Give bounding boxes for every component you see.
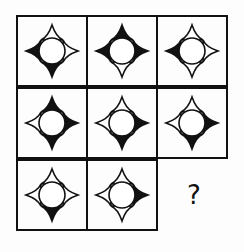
center-circle [179,38,205,64]
puzzle-cell [86,87,158,159]
four-point-star-icon [88,161,156,229]
puzzle-cell [86,15,158,87]
answer-cell: ? [156,159,228,231]
four-point-star-icon [18,161,86,229]
puzzle-cell [16,15,88,87]
puzzle-cell [16,87,88,159]
puzzle-cell [86,159,158,231]
center-circle [39,38,65,64]
four-point-star-icon [18,89,86,157]
puzzle-cell [156,15,228,87]
puzzle-cell [16,159,88,231]
four-point-star-icon [88,17,156,85]
question-mark: ? [158,159,230,231]
center-circle [109,38,135,64]
four-point-star-icon [158,89,226,157]
center-circle [39,182,65,208]
four-point-star-icon [88,89,156,157]
center-circle [39,110,65,136]
puzzle-cell [156,87,228,159]
four-point-star-icon [158,17,226,85]
four-point-star-icon [18,17,86,85]
center-circle [109,110,135,136]
center-circle [179,110,205,136]
center-circle [109,182,135,208]
